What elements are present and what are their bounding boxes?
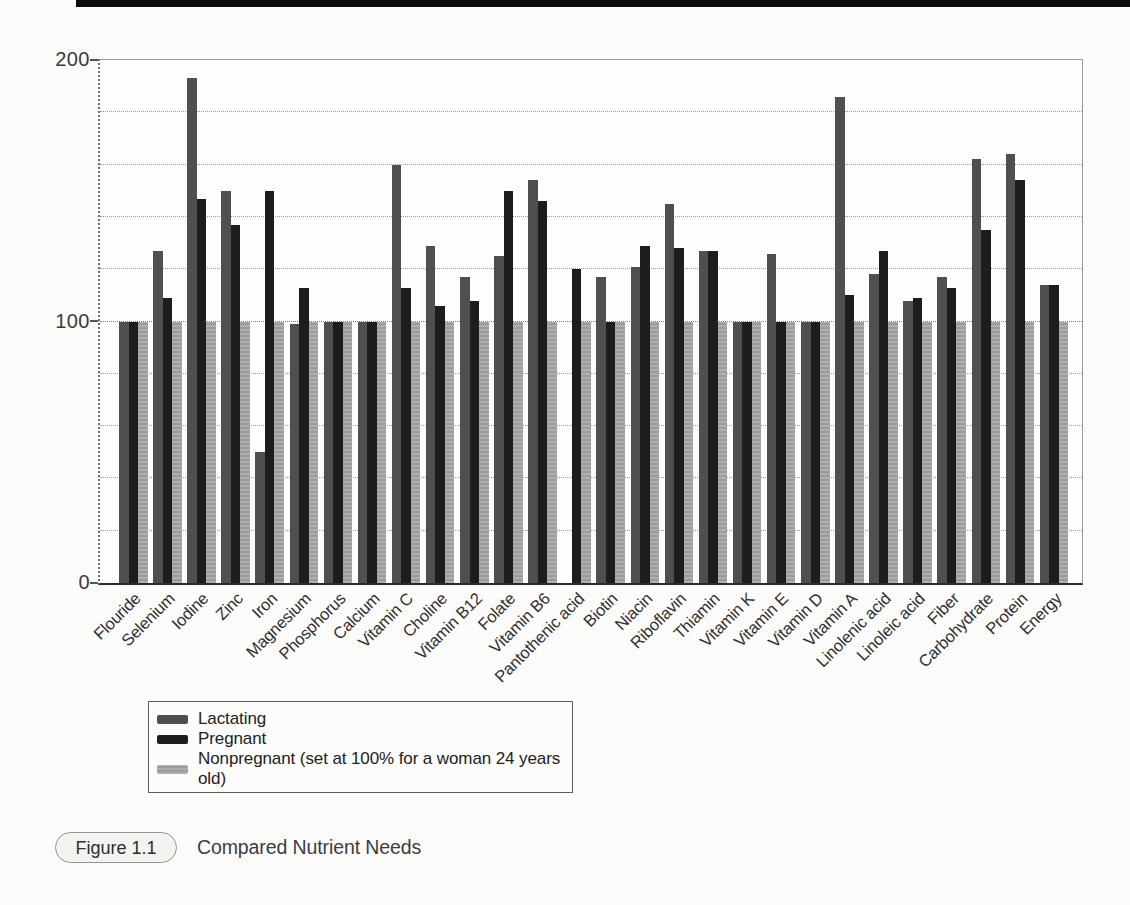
bar-nonpregnant-thiamin bbox=[718, 322, 728, 584]
x-axis-label-vitamin-e: Vitamin E bbox=[730, 589, 792, 651]
bar-group-selenium bbox=[153, 60, 182, 583]
bar-nonpregnant-biotin bbox=[615, 322, 625, 584]
bar-nonpregnant-vitamin-e bbox=[786, 322, 796, 584]
bar-lactating-vitamin-e bbox=[767, 254, 777, 583]
bar-group-fiber bbox=[937, 60, 966, 583]
x-axis-label-selenium: Selenium bbox=[118, 589, 179, 650]
bar-pregnant-vitamin-a bbox=[845, 295, 855, 583]
bar-lactating-energy bbox=[1040, 285, 1050, 583]
bar-nonpregnant-energy bbox=[1059, 322, 1069, 584]
y-axis-tick-0 bbox=[90, 582, 98, 584]
bar-pregnant-carbohydrate bbox=[981, 230, 991, 583]
bar-group-thiamin bbox=[699, 60, 728, 583]
bar-pregnant-fiber bbox=[947, 288, 957, 583]
bar-pregnant-calcium bbox=[367, 322, 377, 584]
bar-pregnant-vitamin-c bbox=[401, 288, 411, 583]
bar-lactating-iodine bbox=[187, 78, 197, 583]
legend-swatch-lactating bbox=[157, 715, 188, 724]
x-axis-label-magnesium: Magnesium bbox=[242, 589, 314, 661]
x-axis-label-linolenic-acid: Linolenic acid bbox=[812, 589, 894, 671]
bar-lactating-linolenic-acid bbox=[869, 274, 879, 583]
bar-group-riboflavin bbox=[665, 60, 694, 583]
bar-pregnant-vitamin-k bbox=[742, 322, 752, 584]
bar-pregnant-vitamin-e bbox=[776, 322, 786, 584]
bar-lactating-vitamin-a bbox=[835, 97, 845, 583]
x-axis-label-pantothenic-acid: Pantothenic acid bbox=[490, 589, 587, 686]
bar-nonpregnant-vitamin-c bbox=[411, 322, 421, 584]
bar-group-calcium bbox=[358, 60, 387, 583]
bar-pregnant-biotin bbox=[606, 322, 616, 584]
bar-nonpregnant-carbohydrate bbox=[991, 322, 1001, 584]
bar-pregnant-riboflavin bbox=[674, 248, 684, 583]
bar-pregnant-vitamin-b6 bbox=[538, 201, 548, 583]
bar-pregnant-energy bbox=[1049, 285, 1059, 583]
bar-group-flouride bbox=[119, 60, 148, 583]
bar-group-energy bbox=[1040, 60, 1069, 583]
bar-group-vitamin-b12 bbox=[460, 60, 489, 583]
bar-group-zinc bbox=[221, 60, 250, 583]
x-axis-label-iodine: Iodine bbox=[168, 589, 212, 633]
bar-lactating-niacin bbox=[631, 267, 641, 583]
x-axis-label-vitamin-k: Vitamin K bbox=[696, 589, 758, 651]
bar-lactating-flouride bbox=[119, 322, 129, 584]
bar-nonpregnant-vitamin-d bbox=[820, 322, 830, 584]
x-axis-label-zinc: Zinc bbox=[212, 589, 247, 624]
bar-nonpregnant-protein bbox=[1025, 322, 1035, 584]
y-axis-tick-label-100: 100 bbox=[28, 310, 90, 333]
bar-pregnant-zinc bbox=[231, 225, 241, 583]
bar-pregnant-pantothenic-acid bbox=[572, 269, 582, 583]
bar-nonpregnant-flouride bbox=[138, 322, 148, 584]
bar-nonpregnant-iodine bbox=[206, 322, 216, 584]
bar-lactating-vitamin-d bbox=[801, 322, 811, 584]
bar-group-carbohydrate bbox=[972, 60, 1001, 583]
bar-pregnant-thiamin bbox=[708, 251, 718, 583]
bar-nonpregnant-vitamin-k bbox=[752, 322, 762, 584]
x-axis-label-choline: Choline bbox=[399, 589, 451, 641]
bar-pregnant-choline bbox=[435, 306, 445, 583]
x-axis-label-niacin: Niacin bbox=[611, 589, 656, 634]
bar-nonpregnant-phosphorus bbox=[343, 322, 353, 584]
bar-lactating-carbohydrate bbox=[972, 159, 982, 583]
bar-lactating-calcium bbox=[358, 322, 368, 584]
plot-area bbox=[98, 59, 1083, 585]
bar-lactating-vitamin-b12 bbox=[460, 277, 470, 583]
bar-lactating-vitamin-c bbox=[392, 165, 402, 583]
y-axis-tick-100 bbox=[90, 320, 98, 322]
bar-pregnant-magnesium bbox=[299, 288, 309, 583]
bar-lactating-choline bbox=[426, 246, 436, 583]
bar-pregnant-iodine bbox=[197, 199, 207, 583]
bar-group-iron bbox=[255, 60, 284, 583]
bar-lactating-zinc bbox=[221, 191, 231, 583]
bar-pregnant-vitamin-b12 bbox=[470, 301, 480, 583]
bar-pregnant-vitamin-d bbox=[811, 322, 821, 584]
bar-group-linolenic-acid bbox=[869, 60, 898, 583]
bar-nonpregnant-fiber bbox=[956, 322, 966, 584]
bar-nonpregnant-linolenic-acid bbox=[888, 322, 898, 584]
bar-nonpregnant-calcium bbox=[377, 322, 387, 584]
bar-lactating-protein bbox=[1006, 154, 1016, 583]
x-axis-label-biotin: Biotin bbox=[580, 589, 622, 631]
figure-title: Compared Nutrient Needs bbox=[197, 836, 421, 859]
y-axis-tick-label-0: 0 bbox=[28, 571, 90, 594]
bar-group-vitamin-k bbox=[733, 60, 762, 583]
x-axis-label-carbohydrate: Carbohydrate bbox=[915, 589, 997, 671]
bar-group-choline bbox=[426, 60, 455, 583]
x-axis-label-riboflavin: Riboflavin bbox=[627, 589, 690, 652]
bar-lactating-selenium bbox=[153, 251, 163, 583]
legend-label-lactating: Lactating bbox=[198, 709, 266, 729]
x-axis-label-vitamin-b6: Vitamin B6 bbox=[485, 589, 553, 657]
bar-group-magnesium bbox=[290, 60, 319, 583]
bar-pregnant-niacin bbox=[640, 246, 650, 583]
figure-page: 200 100 0 FlourideSeleniumIodineZincIron… bbox=[0, 0, 1130, 905]
bar-lactating-biotin bbox=[596, 277, 606, 583]
bar-group-vitamin-c bbox=[392, 60, 421, 583]
bar-group-biotin bbox=[596, 60, 625, 583]
bar-group-folate bbox=[494, 60, 523, 583]
bar-lactating-iron bbox=[255, 452, 265, 583]
x-axis-label-phosphorus: Phosphorus bbox=[275, 589, 349, 663]
x-axis-label-vitamin-a: Vitamin A bbox=[799, 589, 860, 650]
x-axis-label-vitamin-b12: Vitamin B12 bbox=[411, 589, 486, 664]
x-axis-label-energy: Energy bbox=[1016, 589, 1066, 639]
x-axis-label-vitamin-d: Vitamin D bbox=[764, 589, 827, 652]
x-axis-label-fiber: Fiber bbox=[924, 589, 963, 628]
